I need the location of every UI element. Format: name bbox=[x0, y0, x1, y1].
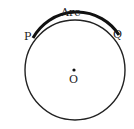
arc-diagram: Arc P Q O bbox=[0, 0, 134, 129]
arc-label: Arc bbox=[60, 6, 80, 19]
point-q-label: Q bbox=[113, 28, 122, 41]
center-o-label: O bbox=[69, 73, 78, 86]
point-p-label: P bbox=[24, 30, 32, 43]
center-point bbox=[72, 68, 75, 71]
